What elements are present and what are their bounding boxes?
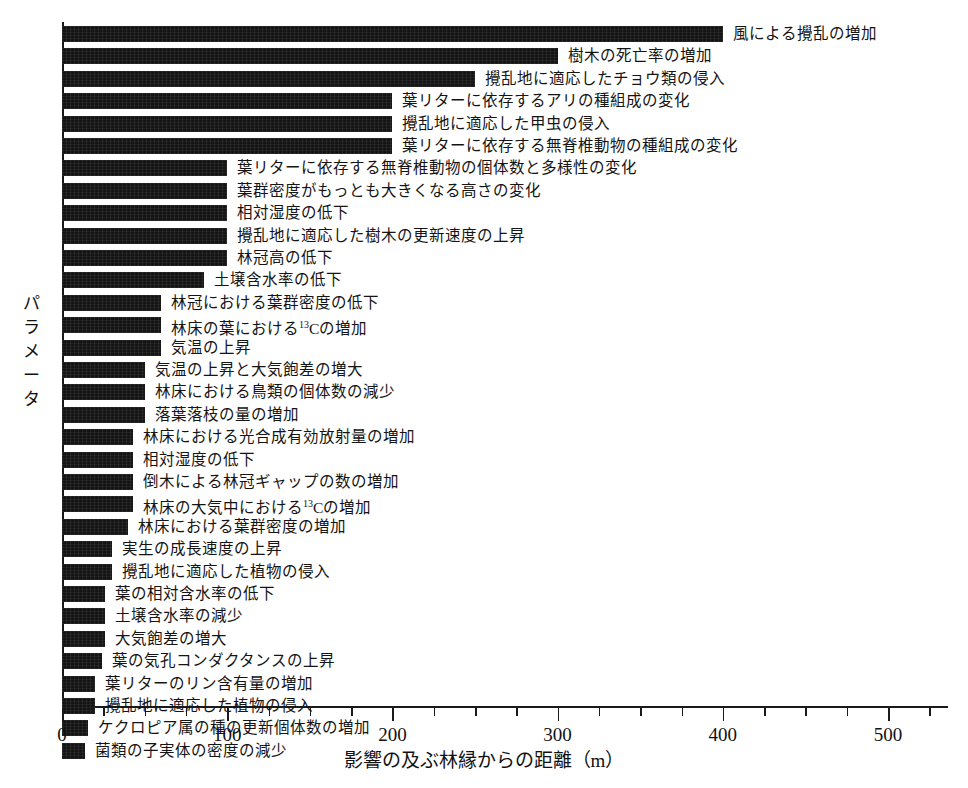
x-tick-minor — [929, 708, 931, 716]
x-tick-label: 200 — [378, 724, 407, 746]
x-tick-major — [62, 708, 64, 721]
bar — [62, 384, 145, 400]
bar — [62, 93, 392, 109]
x-tick-label: 100 — [213, 724, 242, 746]
bar-row: 葉群密度がもっとも大きくなる高さの変化 — [62, 181, 948, 203]
bar-row: ケクロピア属の種の更新個体数の増加 — [62, 718, 948, 740]
bar-label: 葉リターに依存する無脊椎動物の種組成の変化 — [402, 136, 738, 155]
x-tick-label: 500 — [874, 724, 903, 746]
bar-label: 落葉落枝の量の増加 — [155, 405, 299, 424]
bar-label: 林床の大気中における13Cの増加 — [143, 494, 371, 517]
x-tick-minor — [682, 708, 684, 716]
bar-label: 倒木による林冠ギャップの数の増加 — [143, 472, 399, 491]
bar-row: 林床の葉における13Cの増加 — [62, 315, 948, 337]
bar-row: 樹木の死亡率の増加 — [62, 46, 948, 68]
bar-row: 相対湿度の低下 — [62, 450, 948, 472]
bar-row: 攪乱地に適応した甲虫の侵入 — [62, 114, 948, 136]
plot-area: 風による攪乱の増加樹木の死亡率の増加攪乱地に適応したチョウ類の侵入葉リターに依存… — [62, 16, 950, 700]
bar-label: 実生の成長速度の上昇 — [122, 539, 282, 558]
bar-label: 攪乱地に適応した植物の侵入 — [122, 562, 330, 581]
bar-row: 林床における光合成有効放射量の増加 — [62, 427, 948, 449]
bar-row: 葉リターに依存する無脊椎動物の個体数と多様性の変化 — [62, 158, 948, 180]
bar-label: 林床における光合成有効放射量の増加 — [143, 427, 415, 446]
x-tick-major — [558, 708, 560, 721]
bar-label: 林冠高の低下 — [237, 248, 333, 267]
bar-label: 葉の相対含水率の低下 — [115, 584, 275, 603]
bar-row: 林冠高の低下 — [62, 248, 948, 270]
bar-label: 気温の上昇と大気飽差の増大 — [155, 360, 363, 379]
bar-label: 林床の葉における13Cの増加 — [171, 315, 367, 338]
x-tick-minor — [475, 708, 477, 716]
bar-row: 葉の気孔コンダクタンスの上昇 — [62, 651, 948, 673]
bar — [62, 519, 128, 535]
bar-label: 葉の気孔コンダクタンスの上昇 — [112, 651, 335, 670]
bar — [62, 362, 145, 378]
bar — [62, 631, 105, 647]
bar-label: 攪乱地に適応した樹木の更新速度の上昇 — [237, 226, 525, 245]
bar — [62, 71, 475, 87]
bar — [62, 138, 392, 154]
bar-row: 攪乱地に適応した植物の侵入 — [62, 562, 948, 584]
x-tick-minor — [351, 708, 353, 716]
bar — [62, 250, 227, 266]
x-tick-minor — [186, 708, 188, 716]
bar-row: 葉リターに依存する無脊椎動物の種組成の変化 — [62, 136, 948, 158]
x-tick-minor — [599, 708, 601, 716]
x-tick-label: 300 — [543, 724, 572, 746]
bar — [62, 564, 112, 580]
x-tick-major — [227, 708, 229, 721]
bar-label: 相対湿度の低下 — [237, 203, 349, 222]
bar-row: 攪乱地に適応した植物の侵入 — [62, 696, 948, 718]
bar-chart: パ ラ メ ー タ 風による攪乱の増加樹木の死亡率の増加攪乱地に適応したチョウ類… — [0, 0, 968, 788]
bar-label: 葉リターのリン含有量の増加 — [105, 674, 313, 693]
bar-label: 気温の上昇 — [171, 338, 251, 357]
bar — [62, 698, 95, 714]
bar-label: 土壌含水率の減少 — [115, 606, 243, 625]
bar-row: 相対湿度の低下 — [62, 203, 948, 225]
bar-row: 攪乱地に適応したチョウ類の侵入 — [62, 69, 948, 91]
bar-row: 林床における葉群密度の増加 — [62, 517, 948, 539]
bar-row: 実生の成長速度の上昇 — [62, 539, 948, 561]
x-tick-minor — [310, 708, 312, 716]
bar-label: 林冠における葉群密度の低下 — [171, 293, 379, 312]
bar-label: 林床における葉群密度の増加 — [138, 517, 346, 536]
bar-row: 気温の上昇と大気飽差の増大 — [62, 360, 948, 382]
bar-label: 風による攪乱の増加 — [733, 24, 877, 43]
bar — [62, 272, 204, 288]
bar — [62, 452, 133, 468]
bar-label: 土壌含水率の低下 — [214, 270, 342, 289]
bar-label: 大気飽差の増大 — [115, 629, 227, 648]
bar — [62, 586, 105, 602]
bar-row: 林冠における葉群密度の低下 — [62, 293, 948, 315]
bar — [62, 407, 145, 423]
bar-row: 落葉落枝の量の増加 — [62, 405, 948, 427]
x-tick-minor — [764, 708, 766, 716]
x-tick-major — [723, 708, 725, 721]
x-tick-minor — [145, 708, 147, 716]
bar-row: 大気飽差の増大 — [62, 629, 948, 651]
bar-row: 林床における鳥類の個体数の減少 — [62, 382, 948, 404]
bar-label: 攪乱地に適応した甲虫の侵入 — [402, 114, 610, 133]
x-axis-title: 影響の及ぶ林縁からの距離（m） — [0, 745, 968, 772]
bar — [62, 496, 133, 512]
bar-label: 葉リターに依存するアリの種組成の変化 — [402, 91, 690, 110]
x-tick-minor — [640, 708, 642, 716]
bar — [62, 676, 95, 692]
x-tick-major — [392, 708, 394, 721]
bar — [62, 160, 227, 176]
y-axis-title: パ ラ メ ー タ — [14, 292, 48, 412]
x-tick-minor — [434, 708, 436, 716]
bar-row: 土壌含水率の低下 — [62, 270, 948, 292]
bar — [62, 608, 105, 624]
bar — [62, 48, 558, 64]
bar-row: 葉の相対含水率の低下 — [62, 584, 948, 606]
bar — [62, 653, 102, 669]
bar — [62, 317, 161, 333]
bar — [62, 295, 161, 311]
x-tick-label: 0 — [57, 724, 67, 746]
bar-row: 葉リターに依存するアリの種組成の変化 — [62, 91, 948, 113]
x-tick-minor — [103, 708, 105, 716]
bar-label: 攪乱地に適応した植物の侵入 — [105, 696, 313, 715]
bar — [62, 183, 227, 199]
bar-row: 林床の大気中における13Cの増加 — [62, 494, 948, 516]
